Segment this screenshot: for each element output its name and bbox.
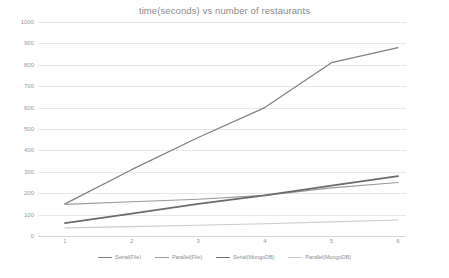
gridline — [38, 236, 406, 237]
x-axis-tick-label: 5 — [330, 238, 333, 244]
legend-item[interactable]: Serial(MongoDB) — [216, 254, 274, 260]
y-axis-tick-label: 800 — [8, 62, 34, 68]
x-axis-tick-label: 2 — [130, 238, 133, 244]
legend-swatch-icon — [216, 257, 230, 258]
legend-item-label: Serial(MongoDB) — [233, 254, 274, 260]
y-axis-tick-label: 500 — [8, 126, 34, 132]
x-axis-tick-label: 4 — [263, 238, 266, 244]
x-axis-tick-label: 6 — [396, 238, 399, 244]
legend-item[interactable]: Parallel(File) — [155, 254, 202, 260]
y-axis-tick-label: 1000 — [8, 19, 34, 25]
chart-title: time(seconds) vs number of restaurants — [0, 5, 449, 16]
series-line — [65, 183, 398, 205]
legend-swatch-icon — [98, 257, 112, 258]
legend-item-label: Parallel(File) — [172, 254, 202, 260]
x-axis-tick-label: 1 — [63, 238, 66, 244]
y-axis-tick-labels: 01002003004005006007008009001000 — [8, 22, 34, 236]
plot-area — [38, 22, 406, 236]
x-axis-tick-labels: 123456 — [38, 238, 406, 250]
y-axis-tick-label: 0 — [8, 233, 34, 239]
series-lines — [38, 22, 406, 236]
series-line — [65, 48, 398, 204]
y-axis-tick-label: 300 — [8, 169, 34, 175]
y-axis-tick-label: 700 — [8, 83, 34, 89]
y-axis-tick-label: 600 — [8, 105, 34, 111]
legend-item[interactable]: Serial(File) — [98, 254, 141, 260]
chart-legend: Serial(File)Parallel(File)Serial(MongoDB… — [0, 254, 449, 260]
line-chart: time(seconds) vs number of restaurants 0… — [0, 0, 449, 278]
series-line — [65, 176, 398, 223]
legend-item-label: Parallel(MongoDB) — [305, 254, 351, 260]
y-axis-tick-label: 900 — [8, 40, 34, 46]
series-line — [65, 220, 398, 228]
y-axis-tick-label: 200 — [8, 190, 34, 196]
legend-swatch-icon — [288, 257, 302, 258]
x-axis-tick-label: 3 — [197, 238, 200, 244]
y-axis-tick-label: 400 — [8, 147, 34, 153]
legend-swatch-icon — [155, 257, 169, 258]
y-axis-tick-label: 100 — [8, 212, 34, 218]
legend-item-label: Serial(File) — [115, 254, 141, 260]
legend-item[interactable]: Parallel(MongoDB) — [288, 254, 351, 260]
